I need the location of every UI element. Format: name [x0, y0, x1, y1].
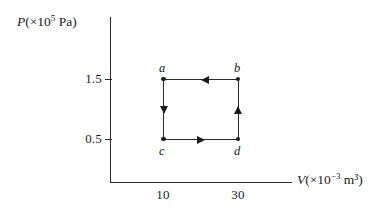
- y-tick-mark-0-5: [105, 139, 112, 140]
- pv-diagram-figure: P(×105 Pa) V(×10−3 m³) 1.5 0.5 10 30 a b…: [0, 0, 377, 210]
- arrowhead-a-to-c: [160, 106, 168, 114]
- x-axis-units-tail: m³): [340, 172, 362, 187]
- y-tick-mark-1-5: [105, 79, 112, 80]
- y-axis-title: P(×105 Pa): [17, 14, 77, 29]
- x-tick-label-30: 30: [223, 188, 253, 201]
- y-axis-units-tail: Pa): [55, 14, 76, 29]
- x-axis-variable: V: [297, 172, 305, 187]
- point-label-d: d: [234, 145, 240, 158]
- y-tick-label-1-5: 1.5: [62, 72, 102, 85]
- data-point-c: [161, 137, 166, 142]
- data-point-a: [161, 77, 166, 82]
- x-axis-units-open: (×10: [305, 172, 331, 187]
- y-axis-variable: P: [17, 14, 25, 29]
- y-axis-line: [110, 17, 111, 183]
- data-point-d: [236, 137, 241, 142]
- x-axis-line: [110, 182, 292, 183]
- x-axis-title: V(×10−3 m³): [297, 172, 363, 187]
- point-label-b: b: [234, 62, 240, 75]
- point-label-c: c: [159, 145, 165, 158]
- arrowhead-c-to-d: [197, 136, 205, 144]
- x-axis-exponent: −3: [331, 171, 341, 181]
- y-axis-units-open: (×10: [25, 14, 51, 29]
- data-point-b: [236, 77, 241, 82]
- arrowhead-b-to-a: [201, 76, 209, 84]
- point-label-a: a: [159, 62, 165, 75]
- y-tick-label-0-5: 0.5: [62, 132, 102, 145]
- arrowhead-d-to-b: [234, 106, 242, 114]
- x-tick-label-10: 10: [148, 188, 178, 201]
